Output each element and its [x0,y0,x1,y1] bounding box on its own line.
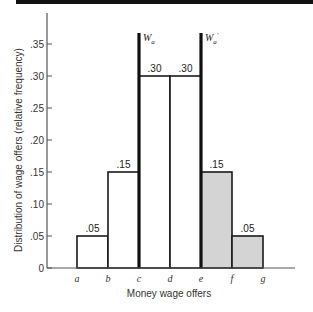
bar-value-label: .30 [179,63,193,74]
y-tick-label: .10 [30,199,44,210]
y-tick-label: .25 [30,103,44,114]
w-a-prime-label: Wa′ [205,31,219,46]
w-a-label: Wa [143,32,155,46]
histogram-bar [108,172,139,268]
histogram-bar [170,76,201,268]
x-tick-label: c [137,273,142,284]
y-tick-label: .20 [30,135,44,146]
x-tick-label: g [261,273,266,284]
histogram-chart: .05.15.30.30.15.05WaWa′0.05.10.15.20.25.… [0,0,313,312]
y-tick-label: .30 [30,71,44,82]
x-tick-label: e [199,273,204,284]
bar-value-label: .30 [148,63,162,74]
y-tick-label: .05 [30,231,44,242]
bar-value-label: .15 [117,159,131,170]
y-axis-title: Distribution of wage offers (relative fr… [13,48,24,252]
histogram-bar [201,172,232,268]
histogram-bar [139,76,170,268]
bar-value-label: .05 [241,223,255,234]
x-tick-label: a [75,273,80,284]
y-tick-label: 0 [38,263,44,274]
x-tick-label: b [106,273,111,284]
bars-group [77,33,263,268]
x-tick-label: f [231,273,235,284]
histogram-bar [232,236,263,268]
bar-value-label: .15 [210,159,224,170]
y-tick-label: .35 [30,39,44,50]
x-axis-title: Money wage offers [127,288,211,299]
y-tick-label: .15 [30,167,44,178]
bar-value-label: .05 [86,223,100,234]
x-tick-label: d [168,273,174,284]
histogram-bar [77,236,108,268]
